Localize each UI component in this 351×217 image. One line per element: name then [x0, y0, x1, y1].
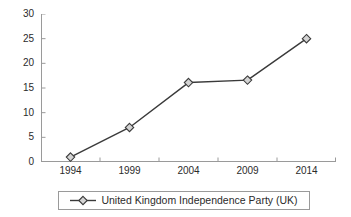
y-axis-labels: 051015202530	[0, 14, 34, 162]
series-group	[66, 34, 310, 161]
x-tick-label: 1994	[41, 165, 100, 176]
diamond-line-marker-icon	[70, 195, 96, 206]
y-tick-label: 25	[8, 34, 34, 44]
legend-diamond	[79, 196, 87, 204]
data-point-marker[interactable]	[66, 153, 74, 161]
axis-lines	[41, 14, 336, 162]
legend-item[interactable]: United Kingdom Independence Party (UK)	[70, 195, 297, 206]
x-axis-labels: 19941999200420092014	[41, 165, 336, 179]
y-tick-label: 10	[8, 108, 34, 118]
x-tick-label: 2009	[218, 165, 277, 176]
y-tick-label: 15	[8, 83, 34, 93]
y-tick-label: 0	[8, 157, 34, 167]
x-tick-label: 2014	[277, 165, 336, 176]
line-chart: 051015202530 19941999200420092014 United…	[0, 0, 351, 217]
data-point-marker[interactable]	[243, 76, 251, 84]
y-tick-label: 20	[8, 58, 34, 68]
x-tick-label: 2004	[159, 165, 218, 176]
series-line	[71, 39, 307, 157]
plot-area	[41, 14, 336, 162]
y-tick-label: 5	[8, 132, 34, 142]
x-tick-label: 1999	[100, 165, 159, 176]
legend: United Kingdom Independence Party (UK)	[58, 191, 310, 210]
y-tick-label: 30	[8, 9, 34, 19]
legend-item-label: United Kingdom Independence Party (UK)	[101, 195, 297, 206]
plot-svg	[41, 14, 336, 162]
data-point-marker[interactable]	[302, 34, 310, 42]
